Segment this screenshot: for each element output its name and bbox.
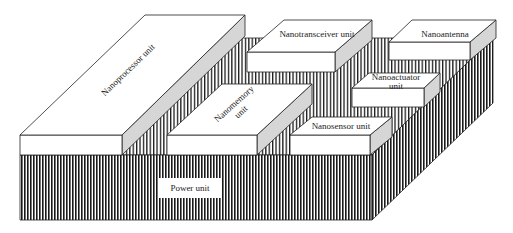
nanosensor-front-face: [290, 135, 370, 155]
nanosensor-label: Nanosensor unit: [312, 121, 371, 131]
nanoantenna-front-face: [389, 42, 470, 60]
nanoactuator-block: Nanoactuator unit: [352, 72, 440, 107]
nanotransceiver-front-face: [247, 52, 335, 72]
power-unit-label: Power unit: [170, 183, 210, 193]
nanosensor-block: Nanosensor unit: [290, 117, 392, 155]
nanoactuator-label-line2: unit: [389, 81, 404, 91]
nanomachine-diagram: Power unit Nanotransceiver unit Nanoante…: [0, 0, 513, 233]
nanoantenna-label: Nanoantenna: [421, 29, 468, 39]
nanotransceiver-label: Nanotransceiver unit: [279, 29, 355, 39]
nanoprocessor-front-face: [20, 135, 122, 155]
nanomemory-front-face: [167, 135, 257, 155]
